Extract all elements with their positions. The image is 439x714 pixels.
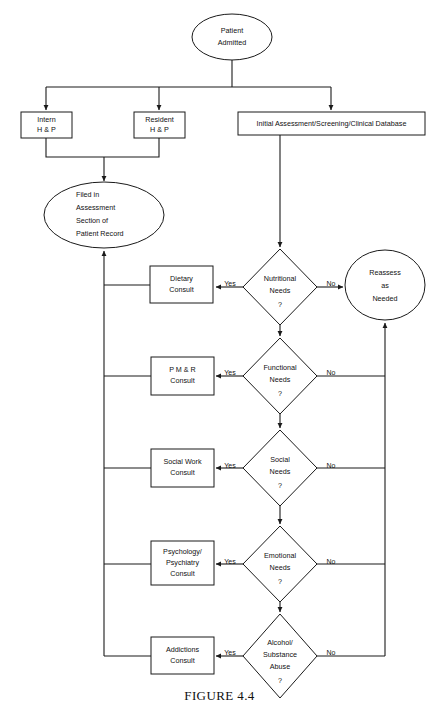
social-work-consult-line-1: Social Work bbox=[163, 457, 202, 466]
alcohol-line-3: Abuse bbox=[270, 662, 290, 671]
pmr-consult-line-2: Consult bbox=[170, 376, 194, 385]
dietary-consult-line-1: Dietary bbox=[170, 274, 193, 283]
intern-hp-line-2: H & P bbox=[37, 125, 56, 134]
node-nutritional-needs[interactable]: Nutritional Needs ? bbox=[243, 249, 317, 325]
nutritional-needs-line-1: Nutritional bbox=[264, 274, 297, 283]
resident-hp-line-2: H & P bbox=[150, 125, 169, 134]
flowchart-canvas: Patient Admitted Intern H & P Resident H… bbox=[0, 0, 439, 714]
figure-page: Patient Admitted Intern H & P Resident H… bbox=[0, 0, 439, 714]
filed-record-line-4: Patient Record bbox=[76, 229, 124, 238]
emotional-needs-line-1: Emotional bbox=[264, 551, 296, 560]
node-addictions-consult[interactable]: Addictions Consult bbox=[151, 637, 214, 674]
label-nutritional-yes: Yes bbox=[224, 280, 236, 287]
node-intern-hp[interactable]: Intern H & P bbox=[21, 112, 72, 138]
label-emotional-no: No bbox=[327, 558, 336, 565]
psychology-consult-line-2: Psychiatry bbox=[166, 558, 200, 567]
reassess-line-1: Reassess bbox=[369, 268, 401, 277]
label-social-no: No bbox=[327, 462, 336, 469]
resident-hp-line-1: Resident bbox=[145, 115, 173, 124]
emotional-needs-line-2: Needs bbox=[270, 563, 291, 572]
patient-admitted-line-1: Patient bbox=[221, 26, 243, 35]
dietary-consult-line-2: Consult bbox=[169, 285, 193, 294]
node-reassess[interactable]: Reassess as Needed bbox=[345, 250, 425, 320]
filed-record-line-2: Assessment bbox=[76, 203, 115, 212]
pmr-consult-line-1: P M & R bbox=[169, 365, 196, 374]
connectors bbox=[46, 60, 385, 656]
patient-admitted-line-2: Admitted bbox=[218, 38, 246, 47]
addictions-consult-line-1: Addictions bbox=[166, 645, 200, 654]
social-needs-line-2: Needs bbox=[270, 467, 291, 476]
reassess-line-3: Needed bbox=[372, 294, 397, 303]
reassess-line-2: as bbox=[381, 281, 389, 290]
functional-needs-line-1: Functional bbox=[263, 363, 297, 372]
alcohol-line-4: ? bbox=[278, 676, 282, 685]
label-functional-yes: Yes bbox=[224, 369, 236, 376]
node-patient-admitted[interactable]: Patient Admitted bbox=[192, 14, 272, 60]
emotional-needs-line-3: ? bbox=[278, 577, 282, 586]
psychology-consult-line-1: Psychology/ bbox=[163, 547, 202, 556]
social-needs-line-1: Social bbox=[270, 455, 290, 464]
nutritional-needs-line-2: Needs bbox=[270, 286, 291, 295]
node-social-work-consult[interactable]: Social Work Consult bbox=[151, 449, 214, 487]
node-psychology-consult[interactable]: Psychology/ Psychiatry Consult bbox=[151, 541, 214, 585]
initial-assessment-label: Initial Assessment/Screening/Clinical Da… bbox=[257, 119, 407, 128]
node-functional-needs[interactable]: Functional Needs ? bbox=[243, 338, 317, 414]
filed-record-line-3: Section of bbox=[76, 216, 108, 225]
nutritional-needs-line-3: ? bbox=[278, 300, 282, 309]
functional-needs-line-3: ? bbox=[278, 389, 282, 398]
intern-hp-line-1: Intern bbox=[37, 115, 55, 124]
social-work-consult-line-2: Consult bbox=[170, 468, 194, 477]
psychology-consult-line-3: Consult bbox=[170, 569, 194, 578]
node-initial-assessment[interactable]: Initial Assessment/Screening/Clinical Da… bbox=[238, 112, 425, 135]
node-pmr-consult[interactable]: P M & R Consult bbox=[151, 357, 214, 395]
edge-hp-merge-bar bbox=[46, 138, 159, 157]
filed-record-line-1: Filed in bbox=[76, 190, 99, 199]
social-needs-line-3: ? bbox=[278, 481, 282, 490]
label-alcohol-no: No bbox=[327, 649, 336, 656]
label-social-yes: Yes bbox=[224, 462, 236, 469]
figure-caption: FIGURE 4.4 bbox=[0, 688, 439, 704]
node-filed-record[interactable]: Filed in Assessment Section of Patient R… bbox=[44, 182, 164, 248]
functional-needs-line-2: Needs bbox=[270, 375, 291, 384]
label-emotional-yes: Yes bbox=[224, 558, 236, 565]
label-functional-no: No bbox=[327, 369, 336, 376]
label-nutritional-no: No bbox=[327, 280, 336, 287]
alcohol-line-2: Substance bbox=[263, 650, 297, 659]
node-resident-hp[interactable]: Resident H & P bbox=[134, 112, 185, 138]
addictions-consult-line-2: Consult bbox=[170, 656, 194, 665]
alcohol-line-1: Alcohol/ bbox=[267, 638, 293, 647]
node-social-needs[interactable]: Social Needs ? bbox=[243, 430, 317, 506]
node-emotional-needs[interactable]: Emotional Needs ? bbox=[243, 526, 317, 602]
label-alcohol-yes: Yes bbox=[224, 649, 236, 656]
node-alcohol-substance-abuse[interactable]: Alcohol/ Substance Abuse ? bbox=[243, 614, 317, 698]
node-dietary-consult[interactable]: Dietary Consult bbox=[150, 266, 213, 303]
